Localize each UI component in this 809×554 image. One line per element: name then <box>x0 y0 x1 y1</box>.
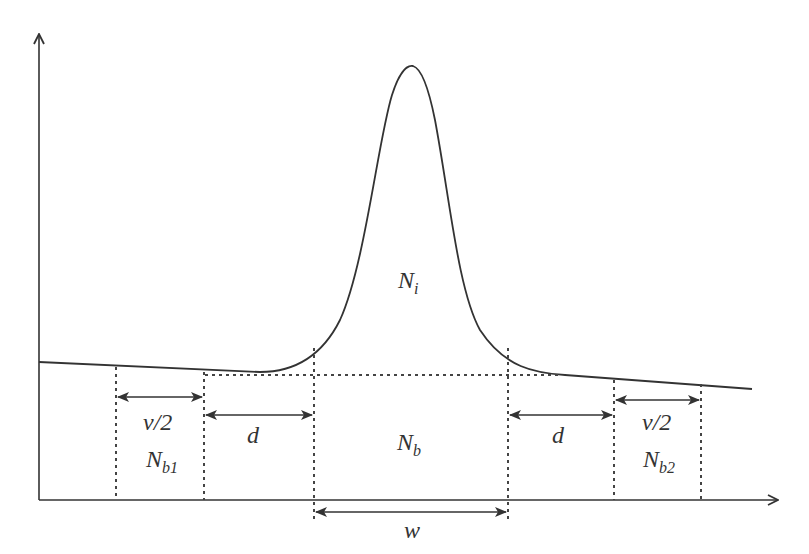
background-under-peak-label: Nb <box>396 429 421 459</box>
peak-width-label: w <box>404 517 420 543</box>
peak-diagram: Ni Nb v/2 Nb1 d d v/2 Nb2 w <box>0 0 809 554</box>
left-background-label: Nb1 <box>145 446 178 476</box>
left-gap-label: d <box>247 422 260 448</box>
signal-curve <box>39 66 752 389</box>
right-window-width-label: v/2 <box>642 409 671 435</box>
peak-area-label: Ni <box>397 267 418 297</box>
right-background-label: Nb2 <box>642 446 675 476</box>
right-gap-label: d <box>552 422 565 448</box>
left-window-width-label: v/2 <box>143 409 172 435</box>
